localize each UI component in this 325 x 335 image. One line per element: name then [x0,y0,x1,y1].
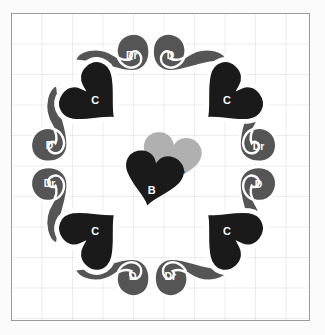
radial-symmetry-artwork: Dr D Dr [12,14,309,320]
ring-comma-label: Dr [44,177,56,189]
center-heart-label-B: B [148,184,156,196]
ring-comma-label: D [129,270,137,282]
ring-heart-label: C [91,94,99,106]
center-heart-group: A B [119,129,205,211]
ring-comma-label: Dr [253,140,265,152]
ring-comma-label: D [255,178,263,190]
ring-heart-label: C [223,94,231,106]
ring-comma-label: Dr [126,48,138,60]
ring-comma-label: D [46,139,54,151]
ring-heart-label: C [91,225,99,237]
figure-frame: Dr D Dr [11,13,310,321]
figure-canvas: Dr D Dr [0,0,325,335]
ring-comma-label: Dr [165,270,177,282]
ring-heart-label: C [223,225,231,237]
ring-comma-label: D [167,48,175,60]
